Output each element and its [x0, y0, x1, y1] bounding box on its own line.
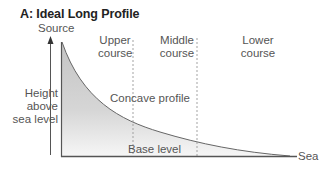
- arrow-up-icon: [48, 36, 54, 44]
- concave-profile-label: Concave profile: [110, 92, 190, 105]
- sea-label: Sea: [298, 150, 318, 163]
- base-level-label: Base level: [128, 143, 181, 156]
